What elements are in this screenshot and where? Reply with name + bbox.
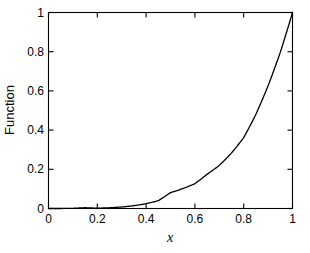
y-tick-label-4: 0.8 <box>27 45 44 59</box>
y-axis-title: Function <box>2 85 17 135</box>
x-axis-title: x <box>166 230 174 245</box>
y-tick-label-5: 1 <box>37 6 44 20</box>
x-tick-label-2: 0.4 <box>138 212 155 226</box>
x-tick-label-5: 1 <box>289 212 296 226</box>
figure-canvas: 0 0.2 0.4 0.6 0.8 1 0 0.2 0.4 0.6 0.8 1 … <box>0 0 310 253</box>
y-tick-label-0: 0 <box>37 202 44 216</box>
x-tick-label-0: 0 <box>45 212 52 226</box>
y-tick-label-3: 0.6 <box>27 84 44 98</box>
chart-plot: 0 0.2 0.4 0.6 0.8 1 0 0.2 0.4 0.6 0.8 1 … <box>0 0 310 253</box>
x-tick-label-1: 0.2 <box>89 212 106 226</box>
x-tick-label-3: 0.6 <box>187 212 204 226</box>
y-tick-label-2: 0.4 <box>27 123 44 137</box>
y-tick-label-1: 0.2 <box>27 162 44 176</box>
x-tick-label-4: 0.8 <box>235 212 252 226</box>
